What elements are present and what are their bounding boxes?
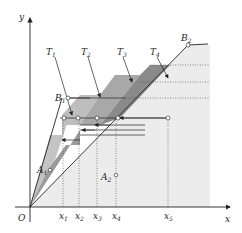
svg-text:x5: x5 (164, 211, 173, 222)
x-tick-labels: x1 x2 x3 x4 x5 (59, 211, 173, 222)
point-a1 (48, 168, 52, 172)
label-b2: B2 (180, 33, 192, 44)
point-a2 (114, 173, 118, 177)
label-t3: T3 (117, 47, 127, 58)
label-t4: T4 (150, 47, 160, 58)
label-b1: B1 (54, 93, 65, 104)
svg-text:x2: x2 (75, 211, 84, 222)
svg-text:x3: x3 (93, 211, 102, 222)
line-b2-tail (188, 44, 208, 45)
label-t2: T2 (81, 47, 91, 58)
band-labels: T1 T2 T3 T4 (46, 47, 160, 58)
svg-text:x4: x4 (112, 211, 121, 222)
origin-label: O (18, 213, 26, 223)
x-axis-label: x (225, 214, 230, 224)
y-axis-label: y (18, 12, 25, 22)
label-t1: T1 (46, 47, 56, 58)
svg-text:x1: x1 (59, 211, 68, 222)
point-b1 (66, 96, 70, 100)
background-region (30, 45, 210, 207)
diagram: y x O x1 x2 x3 x4 x5 T1 T2 T3 T4 B1 B2 A… (0, 0, 242, 233)
